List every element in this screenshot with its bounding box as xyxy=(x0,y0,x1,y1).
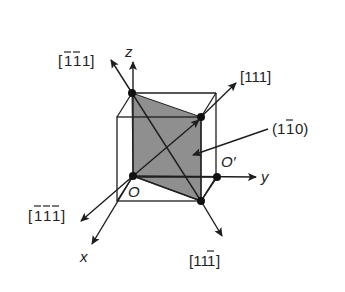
z-axis-label: z xyxy=(124,43,133,60)
point-front-top-right xyxy=(197,113,205,121)
svg-text:1: 1 xyxy=(207,252,215,269)
label-dir-neg1-neg1-1: [ 1 1 1] xyxy=(58,52,95,69)
svg-text:]: ] xyxy=(216,252,220,269)
label-dir-neg1-neg1-neg1: [ 1 1 1 ] xyxy=(28,206,65,224)
dir-neg1-neg1-1-arrow xyxy=(111,60,132,93)
dir-neg111-arrow xyxy=(81,176,133,221)
origin-label: O xyxy=(128,183,140,200)
label-dir-1-1-neg1: [11 1 ] xyxy=(189,251,220,269)
dir-11neg1-arrow xyxy=(201,201,222,236)
origin-prime-label: O′ xyxy=(221,153,237,170)
y-axis xyxy=(133,176,256,177)
point-front-bottom-right xyxy=(197,197,205,205)
svg-text:[11: [11 xyxy=(189,252,209,269)
svg-text:1: 1 xyxy=(34,207,42,224)
dir-111-arrow xyxy=(201,83,236,117)
point-top-back-left xyxy=(128,89,136,97)
svg-text:1]: 1] xyxy=(82,52,95,69)
plane-pointer xyxy=(193,129,268,155)
point-origin xyxy=(129,172,137,180)
svg-text:0): 0) xyxy=(295,120,308,137)
svg-text:]: ] xyxy=(61,207,65,224)
x-axis xyxy=(92,176,133,244)
crystal-diagram: z y x O O′ [ 1 1 1] [111] (1 1 0) [ 1 1 … xyxy=(0,0,345,292)
label-dir-111: [111] xyxy=(240,68,271,85)
svg-text:1: 1 xyxy=(64,52,72,69)
x-axis-label: x xyxy=(79,248,88,265)
front-to-Oprime xyxy=(201,177,217,201)
label-plane-1-10: (1 1 0) xyxy=(272,120,308,137)
svg-text:(1: (1 xyxy=(272,120,285,137)
svg-text:1: 1 xyxy=(52,207,60,224)
point-origin-prime xyxy=(213,173,221,181)
svg-text:1: 1 xyxy=(73,52,81,69)
svg-text:1: 1 xyxy=(43,207,51,224)
svg-text:[: [ xyxy=(28,207,33,224)
svg-text:1: 1 xyxy=(286,120,294,137)
svg-text:[: [ xyxy=(58,52,63,69)
y-axis-label: y xyxy=(260,168,270,185)
